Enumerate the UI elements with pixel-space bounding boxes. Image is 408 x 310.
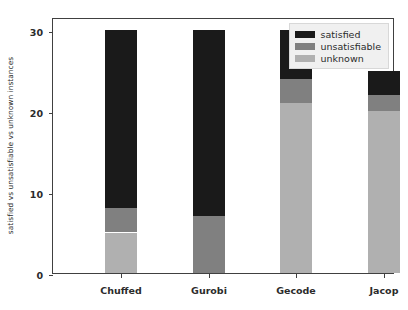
y-tick-0: 0: [49, 275, 53, 276]
x-tick-chuffed: Chuffed: [121, 273, 122, 278]
y-tick-label-10: 10: [30, 189, 43, 200]
plot-area: 0 10 20 30 Chuffed Gurobi Gecode: [52, 18, 394, 274]
y-axis-title-text: satisfied vs unsatisfiable vs unknown in…: [7, 56, 16, 233]
x-tick-label-gurobi: Gurobi: [191, 285, 227, 296]
bar-gurobi[interactable]: [193, 17, 225, 273]
chart-legend: satisfied unsatisfiable unknown: [289, 23, 389, 69]
legend-swatch-unsatisfiable: [295, 43, 315, 50]
legend-label-unsatisfiable: unsatisfiable: [321, 41, 381, 52]
x-tick-label-gecode: Gecode: [276, 285, 316, 296]
bar-segment-jacop-satisfied[interactable]: [368, 71, 400, 95]
x-tick-label-chuffed: Chuffed: [100, 285, 141, 296]
bar-segment-gecode-unknown[interactable]: [280, 103, 312, 273]
chart-figure: satisfied vs unsatisfiable vs unknown in…: [0, 0, 408, 310]
legend-label-satisfied: satisfied: [321, 29, 361, 40]
bar-segment-jacop-unsatisfiable[interactable]: [368, 95, 400, 111]
legend-item-satisfied: satisfied: [295, 28, 381, 40]
x-tick-jacop: Jacop: [384, 273, 385, 278]
y-tick-label-30: 30: [30, 27, 43, 38]
y-axis-title: satisfied vs unsatisfiable vs unknown in…: [0, 0, 22, 290]
x-tick-gecode: Gecode: [296, 273, 297, 278]
x-tick-gurobi: Gurobi: [209, 273, 210, 278]
bar-segment-gurobi-satisfied[interactable]: [193, 30, 225, 216]
bar-segment-chuffed-unsatisfiable[interactable]: [105, 208, 137, 232]
bar-segment-chuffed-unknown[interactable]: [105, 233, 137, 274]
x-tick-label-jacop: Jacop: [370, 285, 399, 296]
bar-segment-gecode-unsatisfiable[interactable]: [280, 79, 312, 103]
legend-swatch-unknown: [295, 55, 315, 62]
legend-item-unknown: unknown: [295, 52, 381, 64]
legend-swatch-satisfied: [295, 31, 315, 38]
legend-item-unsatisfiable: unsatisfiable: [295, 40, 381, 52]
bar-segment-jacop-unknown[interactable]: [368, 111, 400, 273]
y-tick-label-20: 20: [30, 108, 43, 119]
bar-segment-gurobi-unsatisfiable[interactable]: [193, 216, 225, 273]
y-tick-label-0: 0: [36, 270, 43, 281]
legend-label-unknown: unknown: [321, 53, 364, 64]
bar-chuffed[interactable]: [105, 17, 137, 273]
bar-segment-chuffed-satisfied[interactable]: [105, 30, 137, 208]
